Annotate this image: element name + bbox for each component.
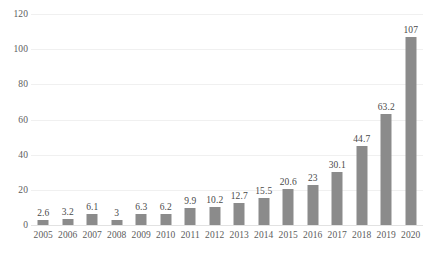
bar-value-label: 23 — [308, 173, 318, 184]
bar-value-label: 6.2 — [160, 202, 172, 213]
bar-value-label: 9.9 — [184, 196, 196, 207]
bar-slot: 6.2 — [154, 14, 179, 225]
bar-slot: 44.7 — [350, 14, 375, 225]
bar-value-label: 63.2 — [378, 102, 395, 113]
bar-chart: 020406080100120 2.63.26.136.36.29.910.21… — [0, 0, 427, 253]
bar-slot: 6.3 — [129, 14, 154, 225]
gridline — [31, 225, 423, 226]
bar[interactable] — [209, 207, 220, 225]
bar[interactable] — [62, 219, 73, 225]
bar-value-label: 30.1 — [329, 160, 346, 171]
x-tick-label: 2010 — [154, 229, 179, 241]
bar[interactable] — [87, 214, 98, 225]
bar[interactable] — [38, 220, 49, 225]
bar-slot: 30.1 — [325, 14, 350, 225]
bar-value-label: 2.6 — [37, 208, 49, 219]
x-tick-label: 2014 — [252, 229, 277, 241]
bar-value-label: 3 — [114, 208, 119, 219]
bar-value-label: 6.3 — [135, 202, 147, 213]
bars-layer: 2.63.26.136.36.29.910.212.715.520.62330.… — [31, 14, 423, 225]
x-tick-label: 2019 — [374, 229, 399, 241]
bar[interactable] — [234, 203, 245, 225]
bar[interactable] — [405, 37, 416, 225]
x-tick-label: 2008 — [105, 229, 130, 241]
bar-slot: 3 — [105, 14, 130, 225]
x-tick-label: 2006 — [56, 229, 81, 241]
bar[interactable] — [332, 172, 343, 225]
y-tick-label: 0 — [0, 220, 28, 230]
bar[interactable] — [136, 214, 147, 225]
bar-value-label: 12.7 — [231, 191, 248, 202]
bar-slot: 23 — [301, 14, 326, 225]
x-tick-label: 2013 — [227, 229, 252, 241]
y-tick-label: 40 — [0, 150, 28, 160]
bar-slot: 12.7 — [227, 14, 252, 225]
x-tick-label: 2016 — [301, 229, 326, 241]
y-tick-label: 100 — [0, 44, 28, 54]
x-tick-label: 2015 — [276, 229, 301, 241]
bar-slot: 15.5 — [252, 14, 277, 225]
bar-value-label: 44.7 — [353, 134, 370, 145]
bar-slot: 20.6 — [276, 14, 301, 225]
x-tick-label: 2009 — [129, 229, 154, 241]
y-tick-label: 120 — [0, 9, 28, 19]
bar-slot: 63.2 — [374, 14, 399, 225]
y-axis: 020406080100120 — [0, 0, 28, 253]
bar-slot: 6.1 — [80, 14, 105, 225]
x-axis: 2005200620072008200920102011201220132014… — [31, 229, 423, 249]
bar[interactable] — [258, 198, 269, 225]
x-tick-label: 2012 — [203, 229, 228, 241]
bar[interactable] — [381, 114, 392, 225]
bar-slot: 9.9 — [178, 14, 203, 225]
x-tick-label: 2007 — [80, 229, 105, 241]
x-tick-label: 2017 — [325, 229, 350, 241]
bar-value-label: 20.6 — [280, 177, 297, 188]
bar-value-label: 3.2 — [62, 207, 74, 218]
bar-slot: 107 — [399, 14, 424, 225]
x-tick-label: 2011 — [178, 229, 203, 241]
x-tick-label: 2020 — [399, 229, 424, 241]
bar-slot: 3.2 — [56, 14, 81, 225]
bar[interactable] — [185, 208, 196, 225]
bar-slot: 2.6 — [31, 14, 56, 225]
y-tick-label: 80 — [0, 79, 28, 89]
bar-value-label: 15.5 — [255, 186, 272, 197]
x-tick-label: 2018 — [350, 229, 375, 241]
bar-value-label: 10.2 — [206, 195, 223, 206]
x-tick-label: 2005 — [31, 229, 56, 241]
bar[interactable] — [283, 189, 294, 225]
bar[interactable] — [160, 214, 171, 225]
bar-value-label: 107 — [403, 25, 418, 36]
bar-slot: 10.2 — [203, 14, 228, 225]
bar[interactable] — [111, 220, 122, 225]
bar[interactable] — [356, 146, 367, 225]
y-tick-label: 20 — [0, 185, 28, 195]
bar-value-label: 6.1 — [86, 202, 98, 213]
bar[interactable] — [307, 185, 318, 225]
y-tick-label: 60 — [0, 115, 28, 125]
